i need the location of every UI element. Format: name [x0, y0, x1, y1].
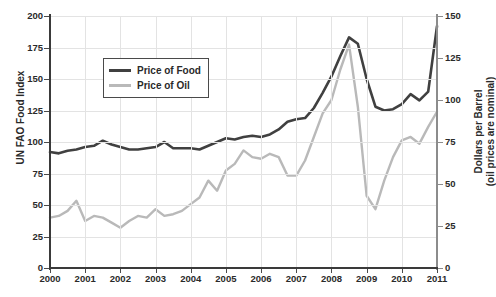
y-tick-label-left: 150 [27, 74, 43, 84]
legend-swatch-food [109, 69, 131, 72]
gridline-horizontal [50, 205, 437, 206]
y-tick-label-left: 50 [32, 200, 43, 210]
legend-item-oil: Price of Oil [109, 78, 201, 93]
legend-swatch-oil [109, 84, 131, 87]
y-tick-left [44, 268, 49, 269]
y-tick-label-right: 75 [445, 137, 456, 147]
x-axis-line [49, 267, 438, 269]
y-tick-label-right: 100 [445, 95, 461, 105]
legend-label-oil: Price of Oil [137, 80, 190, 91]
gridline-vertical [261, 16, 262, 268]
gridline-horizontal [50, 111, 437, 112]
y-tick-left [44, 111, 49, 112]
y-tick-left [44, 205, 49, 206]
y-tick-label-left: 125 [27, 106, 43, 116]
y-tick-label-right: 0 [445, 263, 450, 273]
gridline-vertical [156, 16, 157, 268]
y-tick-right [438, 58, 443, 59]
plot-area [50, 16, 437, 268]
y-tick-left [44, 142, 49, 143]
gridline-vertical [191, 16, 192, 268]
gridline-vertical [85, 16, 86, 268]
y-tick-right [438, 226, 443, 227]
gridline-vertical [120, 16, 121, 268]
x-tick-label: 2011 [415, 274, 459, 284]
y-tick-left [44, 79, 49, 80]
gridline-vertical [367, 16, 368, 268]
y-tick-left [44, 174, 49, 175]
gridline-vertical [331, 16, 332, 268]
y-tick-label-left: 200 [27, 11, 43, 21]
legend-label-food: Price of Food [137, 65, 201, 76]
y-tick-left [44, 48, 49, 49]
y-tick-label-left: 25 [32, 232, 43, 242]
y-tick-right [438, 142, 443, 143]
y-tick-right [438, 184, 443, 185]
legend: Price of Food Price of Oil [103, 58, 209, 98]
y-tick-right [438, 268, 443, 269]
gridline-horizontal [50, 16, 437, 17]
gridline-horizontal [50, 237, 437, 238]
y-axis-right-title: Dollars per Barrel (oil prices are nomin… [473, 52, 496, 212]
y-tick-label-right: 150 [445, 11, 461, 21]
gridline-horizontal [50, 48, 437, 49]
y-tick-label-left: 0 [38, 263, 43, 273]
gridline-vertical [402, 16, 403, 268]
y-axis-right-title-sub: (oil prices are nominal) [484, 52, 496, 212]
y-tick-label-left: 75 [32, 169, 43, 179]
y-tick-left [44, 16, 49, 17]
gridline-horizontal [50, 142, 437, 143]
y-tick-label-left: 175 [27, 43, 43, 53]
gridline-vertical [226, 16, 227, 268]
y-tick-left [44, 237, 49, 238]
y-tick-right [438, 16, 443, 17]
y-axis-left-title: UN FAO Food Index [15, 38, 26, 198]
y-tick-label-right: 125 [445, 53, 461, 63]
y-axis-left-line [49, 14, 51, 270]
y-tick-right [438, 100, 443, 101]
y-tick-label-left: 100 [27, 137, 43, 147]
legend-item-food: Price of Food [109, 63, 201, 78]
gridline-horizontal [50, 174, 437, 175]
y-tick-label-right: 50 [445, 179, 456, 189]
gridline-vertical [296, 16, 297, 268]
y-axis-right-title-main: Dollars per Barrel [473, 52, 485, 212]
y-tick-label-right: 25 [445, 221, 456, 231]
